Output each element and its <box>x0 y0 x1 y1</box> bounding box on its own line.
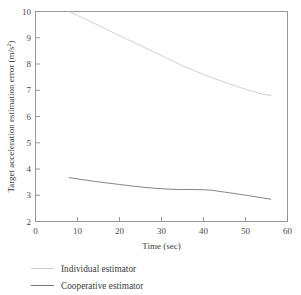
x-tick-label: 10 <box>73 226 83 236</box>
series-line-cooperative-estimator <box>69 178 271 200</box>
x-tick-label: 50 <box>241 226 251 236</box>
legend-label: Individual estimator <box>61 264 137 274</box>
y-axis-title-tail: ) <box>6 40 16 43</box>
x-tick-group <box>36 217 288 222</box>
legend-item-cooperative-estimator[interactable]: Cooperative estimator <box>31 281 144 291</box>
series-layer <box>69 12 271 200</box>
y-axis-title-main: Target acceleration estimation error (m/… <box>6 46 16 193</box>
x-axis: 0 10 20 30 40 50 60 <box>33 217 292 236</box>
y-tick-label: 7 <box>27 85 32 95</box>
chart-svg: 2 3 4 5 6 7 8 9 10 0 10 20 30 <box>0 0 301 295</box>
y-tick-label: 4 <box>27 164 32 174</box>
chart-legend: Individual estimator Cooperative estimat… <box>31 264 144 291</box>
y-tick-group <box>36 12 41 222</box>
legend-label: Cooperative estimator <box>61 281 144 291</box>
y-tick-label: 9 <box>27 33 32 43</box>
y-tick-label: 5 <box>27 138 32 148</box>
y-tick-label: 3 <box>27 190 32 200</box>
x-tick-label: 0 <box>33 226 38 236</box>
y-axis: 2 3 4 5 6 7 8 9 10 <box>22 7 40 227</box>
y-tick-label: 8 <box>27 59 32 69</box>
x-tick-label: 20 <box>115 226 125 236</box>
y-axis-title: Target acceleration estimation error (m/… <box>5 40 16 192</box>
x-tick-label: 60 <box>283 226 293 236</box>
series-line-individual-estimator <box>69 12 271 96</box>
y-axis-title-group: Target acceleration estimation error (m/… <box>5 40 16 192</box>
x-tick-label: 30 <box>157 226 167 236</box>
y-tick-label: 6 <box>27 112 32 122</box>
chart-figure: 2 3 4 5 6 7 8 9 10 0 10 20 30 <box>0 0 301 295</box>
legend-item-individual-estimator[interactable]: Individual estimator <box>31 264 137 274</box>
x-axis-title: Time (sec) <box>142 241 180 251</box>
y-tick-label: 10 <box>22 7 32 17</box>
plot-frame <box>36 12 288 222</box>
y-tick-label: 2 <box>27 217 32 227</box>
x-tick-label: 40 <box>199 226 209 236</box>
